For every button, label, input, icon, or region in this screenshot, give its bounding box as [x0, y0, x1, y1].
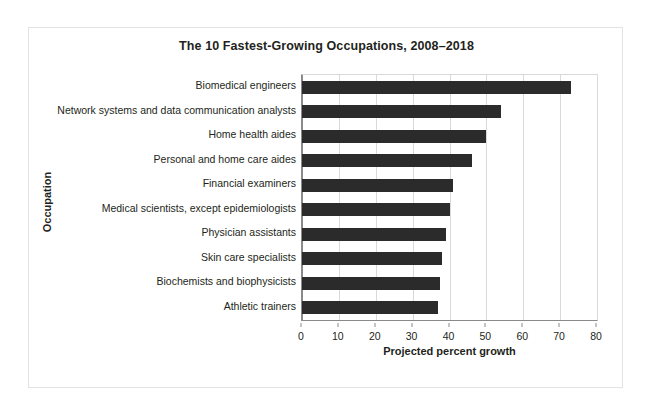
- bar-row: Athletic trainers: [302, 296, 597, 321]
- category-label: Financial examiners: [203, 177, 296, 189]
- category-label: Home health aides: [208, 128, 296, 140]
- bar: [302, 252, 442, 265]
- bar-row: Physician assistants: [302, 222, 597, 247]
- chart-figure: The 10 Fastest-Growing Occupations, 2008…: [28, 27, 623, 388]
- bar: [302, 154, 472, 167]
- x-tick-mark: [559, 323, 560, 327]
- bar: [302, 179, 453, 192]
- category-label: Personal and home care aides: [154, 153, 296, 165]
- x-tick-mark: [596, 323, 597, 327]
- bar-row: Biomedical engineers: [302, 75, 597, 100]
- x-tick-label: 0: [298, 330, 304, 342]
- y-axis-title: Occupation: [41, 112, 53, 292]
- x-tick-mark: [337, 323, 338, 327]
- category-label: Skin care specialists: [201, 251, 296, 263]
- category-label: Physician assistants: [201, 226, 296, 238]
- x-tick-mark: [301, 323, 302, 327]
- bar: [302, 228, 446, 241]
- x-axis-ticks: 01020304050607080: [301, 323, 598, 341]
- x-tick-label: 80: [590, 330, 602, 342]
- x-tick-label: 10: [332, 330, 344, 342]
- x-tick-label: 70: [553, 330, 565, 342]
- x-tick-mark: [448, 323, 449, 327]
- category-label: Medical scientists, except epidemiologis…: [102, 202, 296, 214]
- bar-series: Biomedical engineersNetwork systems and …: [302, 75, 597, 320]
- bar: [302, 277, 440, 290]
- bar: [302, 81, 571, 94]
- x-tick-mark: [411, 323, 412, 327]
- x-tick-mark: [485, 323, 486, 327]
- bar: [302, 105, 501, 118]
- bar-row: Personal and home care aides: [302, 149, 597, 174]
- chart-title: The 10 Fastest-Growing Occupations, 2008…: [29, 39, 624, 53]
- category-label: Biomedical engineers: [196, 79, 296, 91]
- x-tick-label: 60: [516, 330, 528, 342]
- x-axis-title: Projected percent growth: [301, 345, 598, 357]
- x-tick-label: 50: [480, 330, 492, 342]
- bar-row: Home health aides: [302, 124, 597, 149]
- bar: [302, 130, 486, 143]
- plot-area: Biomedical engineersNetwork systems and …: [301, 74, 598, 321]
- x-tick-label: 30: [406, 330, 418, 342]
- bar: [302, 203, 450, 216]
- bar-row: Network systems and data communication a…: [302, 100, 597, 125]
- bar-row: Skin care specialists: [302, 247, 597, 272]
- x-tick-label: 20: [369, 330, 381, 342]
- bar-row: Financial examiners: [302, 173, 597, 198]
- gridline: [597, 75, 598, 320]
- category-label: Athletic trainers: [224, 300, 296, 312]
- category-label: Biochemists and biophysicists: [157, 275, 296, 287]
- x-tick-mark: [522, 323, 523, 327]
- bar-row: Medical scientists, except epidemiologis…: [302, 198, 597, 223]
- category-label: Network systems and data communication a…: [57, 104, 296, 116]
- x-tick-label: 40: [443, 330, 455, 342]
- bar: [302, 301, 438, 314]
- bar-row: Biochemists and biophysicists: [302, 271, 597, 296]
- x-tick-mark: [374, 323, 375, 327]
